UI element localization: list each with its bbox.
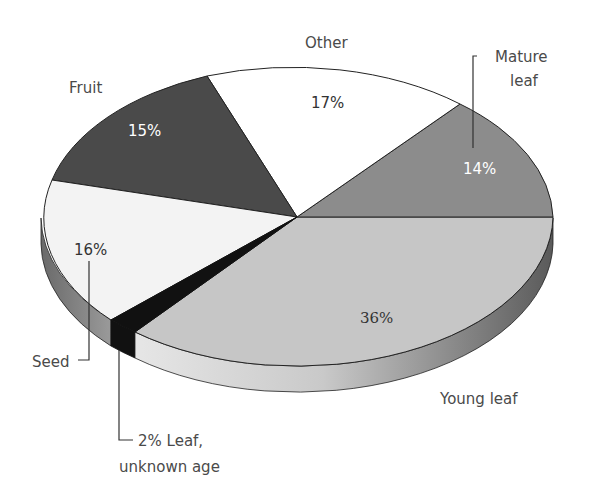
- label-fruit: Fruit: [69, 79, 102, 97]
- pie-chart: 17% 14% 15% 16% 36% Other Mature leaf Fr…: [0, 0, 590, 498]
- label-seed: Seed: [32, 353, 70, 371]
- label-young-leaf: Young leaf: [439, 390, 518, 408]
- label-other: Other: [305, 34, 348, 52]
- pct-fruit: 15%: [128, 122, 161, 140]
- label-mature-leaf-line2: leaf: [510, 72, 539, 90]
- label-unknown-line1: 2% Leaf,: [138, 432, 203, 450]
- label-unknown-line2: unknown age: [119, 458, 220, 476]
- leader-unknown: [119, 350, 133, 440]
- pct-young-leaf: 36%: [360, 309, 393, 327]
- pct-seed: 16%: [74, 241, 107, 259]
- pct-other: 17%: [311, 94, 344, 112]
- label-mature-leaf-line1: Mature: [495, 48, 548, 66]
- pct-mature-leaf: 14%: [463, 160, 496, 178]
